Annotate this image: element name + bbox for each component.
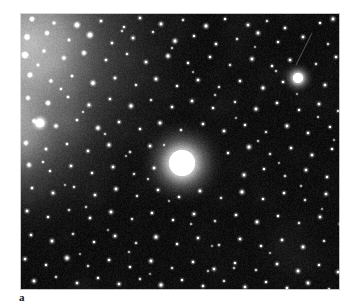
star-field-image <box>20 13 340 290</box>
astronomical-plate <box>20 13 340 290</box>
panel-label-a: a <box>19 291 25 304</box>
figure-panel-a: a <box>0 0 352 308</box>
